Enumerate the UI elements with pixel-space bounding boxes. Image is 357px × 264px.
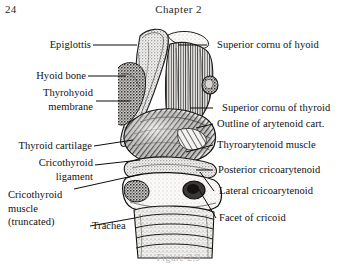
label-cricothyroid-muscle-line2: muscle [8, 202, 98, 216]
label-thyrohyoid-membrane-line1: Thyrohyoid [0, 86, 93, 100]
label-superior-cornu-of-hyoid-text: Superior cornu of hyoid [217, 39, 319, 50]
label-thyroarytenoid-muscle-text: Thyroarytenoid muscle [217, 139, 316, 150]
label-superior-cornu-of-thyroid-text: Superior cornu of thyroid [222, 102, 330, 113]
label-cricothyroid-muscle-line1: Cricothyroid [8, 188, 98, 202]
label-trachea: Trachea [92, 219, 126, 233]
label-thyroarytenoid-muscle: Thyroarytenoid muscle [217, 138, 316, 152]
label-facet-of-cricoid-text: Facet of cricoid [219, 212, 286, 223]
label-superior-cornu-of-thyroid: Superior cornu of thyroid [222, 101, 330, 115]
label-lateral-cricoarytenoid-text: Lateral cricoarytenoid [219, 185, 313, 196]
label-cricothyroid-ligament-line2: ligament [0, 170, 93, 184]
superior-cornu-of-thyroid-structure [202, 76, 218, 94]
label-cricothyroid-muscle: Cricothyroid muscle (truncated) [8, 188, 98, 229]
label-epiglottis-text: Epiglottis [50, 39, 91, 50]
label-cricothyroid-ligament-line1: Cricothyroid [0, 156, 93, 170]
label-hyoid-bone-text: Hyoid bone [36, 70, 86, 81]
label-posterior-cricoarytenoid: Posterior cricoarytenoid [218, 163, 320, 177]
label-thyroid-cartilage: Thyroid cartilage [0, 139, 92, 153]
label-superior-cornu-of-hyoid: Superior cornu of hyoid [217, 38, 319, 52]
label-outline-of-arytenoid-cart: Outline of arytenoid cart. [217, 117, 324, 131]
label-outline-of-arytenoid-cart-text: Outline of arytenoid cart. [217, 118, 324, 129]
label-cricothyroid-ligament: Cricothyroid ligament [0, 156, 93, 183]
label-cricothyroid-muscle-line3: (truncated) [8, 215, 98, 229]
label-thyrohyoid-membrane-line2: membrane [0, 100, 93, 114]
anatomical-figure: Epiglottis Hyoid bone Thyrohyoid membran… [0, 22, 357, 264]
page-header: 24 Chapter 2 [0, 0, 357, 22]
label-facet-of-cricoid: Facet of cricoid [219, 211, 286, 225]
label-thyroid-cartilage-text: Thyroid cartilage [19, 140, 92, 151]
running-title: Chapter 2 [0, 3, 357, 15]
label-hyoid-bone: Hyoid bone [0, 69, 86, 83]
figure-caption: Figure 2.9 [0, 252, 357, 264]
label-trachea-text: Trachea [92, 220, 126, 231]
label-epiglottis: Epiglottis [0, 38, 91, 52]
trachea-structure [134, 206, 214, 258]
label-lateral-cricoarytenoid: Lateral cricoarytenoid [219, 184, 313, 198]
label-posterior-cricoarytenoid-text: Posterior cricoarytenoid [218, 164, 320, 175]
label-thyrohyoid-membrane: Thyrohyoid membrane [0, 86, 93, 113]
